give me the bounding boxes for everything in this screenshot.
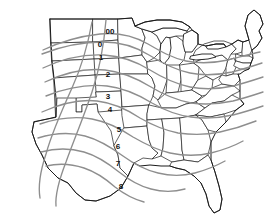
zone-label-2: 2 <box>106 70 111 79</box>
zone-label-6: 6 <box>116 142 121 151</box>
zone-label-5: 5 <box>117 125 122 134</box>
zone-label-7: 7 <box>116 159 121 168</box>
zone-label-3: 3 <box>106 92 111 101</box>
state-arkansas <box>122 105 149 128</box>
zone-label-00: 00 <box>106 27 115 36</box>
zone-label-1: 1 <box>99 53 104 62</box>
map-canvas: 00 0 1 2 3 4 5 6 7 8 <box>0 0 269 219</box>
state-florida <box>170 155 222 213</box>
zone-label-4: 4 <box>108 105 113 114</box>
zone-label-8: 8 <box>119 182 124 191</box>
lake-huron-shape <box>183 30 198 52</box>
us-zone-contour-map: 00 0 1 2 3 4 5 6 7 8 <box>0 0 269 219</box>
zone-label-0: 0 <box>98 40 103 49</box>
state-maryland-delaware <box>219 74 240 86</box>
